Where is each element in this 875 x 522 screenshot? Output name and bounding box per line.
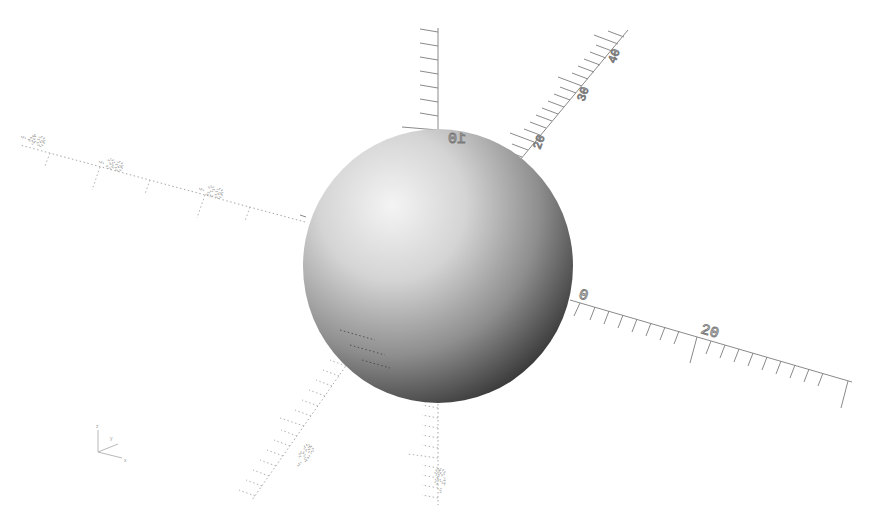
x-label-neg40: -40 (17, 128, 48, 152)
x-label-0: 0 (577, 286, 590, 305)
indicator-z-label: z (96, 423, 99, 429)
x-label-20: 20 (699, 321, 721, 342)
z-axis-positive (402, 28, 438, 145)
y-label-neg20: -20 (290, 441, 319, 473)
sphere-object[interactable] (303, 129, 573, 403)
axis-orientation-indicator: z y x (96, 423, 127, 463)
indicator-y-label: y (110, 435, 113, 441)
indicator-x-label: x (124, 457, 127, 463)
y-label-20: 20 (531, 133, 549, 151)
z-label-neg20: -20 (433, 468, 450, 495)
x-axis-negative (20, 145, 306, 222)
y-axis-negative (239, 360, 350, 500)
x-label-neg20: -20 (195, 180, 226, 204)
x-label-neg30: -30 (95, 153, 126, 177)
scene: -40 -30 -20 0 20 20 30 40 -20 10 -20 z y… (0, 0, 875, 522)
z-label-10: 10 (448, 131, 466, 148)
x-axis-positive (570, 300, 852, 408)
3d-viewport[interactable]: -40 -30 -20 0 20 20 30 40 -20 10 -20 z y… (0, 0, 875, 522)
y-label-30: 30 (575, 85, 593, 103)
